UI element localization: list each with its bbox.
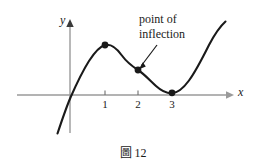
x-tick-label-2: 2 [131, 99, 145, 110]
x-tick-label-3: 3 [165, 99, 179, 110]
inflection-annotation: point of inflection [139, 12, 243, 43]
annotation-arrowhead [139, 62, 146, 69]
x-axis-arrowhead [226, 91, 234, 99]
x-tick-label-1: 1 [98, 99, 112, 110]
point-local-maximum [102, 42, 109, 49]
figure-caption: 圖 12 [0, 143, 266, 161]
figure-caption-number: 12 [132, 146, 147, 160]
y-axis-label: y [60, 14, 65, 26]
y-axis-arrowhead [66, 19, 73, 27]
figure-container: y x 1 2 3 point of inflection 圖 12 [0, 0, 266, 166]
annotation-line-2: inflection [139, 27, 243, 42]
annotation-leader-line [142, 45, 158, 66]
figure-caption-cjk: 圖 [120, 146, 132, 160]
point-local-minimum [169, 89, 176, 96]
x-axis-label: x [238, 86, 243, 98]
annotation-line-1: point of [139, 12, 243, 27]
